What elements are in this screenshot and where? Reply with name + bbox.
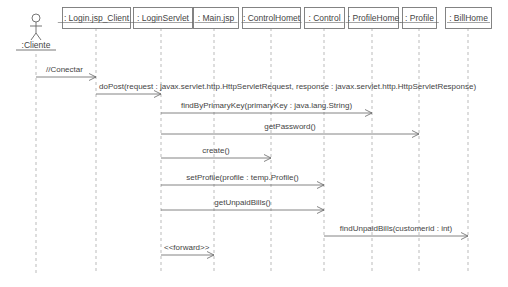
lifeline-label: : Main.jsp — [198, 13, 235, 23]
message-2: findByPrimaryKey(primaryKey : java.lang.… — [161, 101, 372, 117]
lifeline-label: : Control — [308, 13, 340, 23]
message-label: setProfile(profile : temp.Profile() — [186, 173, 299, 182]
message-label: doPost(request : javax.servlet.http.Http… — [99, 82, 476, 91]
lifeline-head-login_jsp_client: : Login.jsp_Client — [58, 8, 135, 29]
lifeline-label: : Profile — [405, 13, 434, 23]
message-label: findUnpaidBills(customerid : int) — [340, 224, 453, 233]
message-label: getPassword() — [264, 122, 316, 131]
lifeline-label: : ProfileHome — [348, 13, 400, 23]
message-6: getUnpaidBills() — [161, 198, 324, 214]
messages: //ConectardoPost(request : javax.servlet… — [36, 65, 476, 259]
message-4: create() — [161, 146, 271, 162]
lifeline-head-control: : Control — [305, 8, 345, 29]
lifeline-head-profile_home: : ProfileHome — [346, 8, 402, 29]
actor-cliente: :Cliente — [16, 14, 56, 50]
message-label: create() — [202, 146, 230, 155]
lifeline-heads: : Login.jsp_Client: LoginServlet: Main.j… — [58, 8, 492, 29]
lifeline-label: : BillHome — [449, 13, 488, 23]
lifeline-head-profile: : Profile — [400, 8, 439, 29]
lifeline-head-bill_home: : BillHome — [446, 8, 492, 29]
message-7: findUnpaidBills(customerid : int) — [324, 224, 468, 240]
lifeline-label: : Login.jsp_Client — [64, 13, 130, 23]
message-0: //Conectar — [36, 65, 96, 81]
message-8: <<forward>> — [161, 243, 214, 259]
message-3: getPassword() — [161, 122, 419, 138]
lifeline-label: : LoginServlet — [137, 13, 190, 23]
stick-figure-icon — [30, 14, 42, 40]
lifeline-head-login_servlet: : LoginServlet — [133, 8, 193, 29]
sequence-diagram: :Cliente : Login.jsp_Client: LoginServle… — [0, 0, 508, 287]
message-label: <<forward>> — [164, 243, 210, 252]
lifeline-head-control_homet: : ControlHomet — [241, 8, 301, 29]
lifeline-head-main_jsp: : Main.jsp — [194, 8, 239, 29]
message-label: //Conectar — [46, 65, 83, 74]
message-label: getUnpaidBills() — [214, 198, 271, 207]
actor-label: :Cliente — [22, 40, 51, 50]
lifeline-label: : ControlHomet — [243, 13, 301, 23]
message-label: findByPrimaryKey(primaryKey : java.lang.… — [181, 101, 353, 110]
message-5: setProfile(profile : temp.Profile() — [161, 173, 324, 189]
